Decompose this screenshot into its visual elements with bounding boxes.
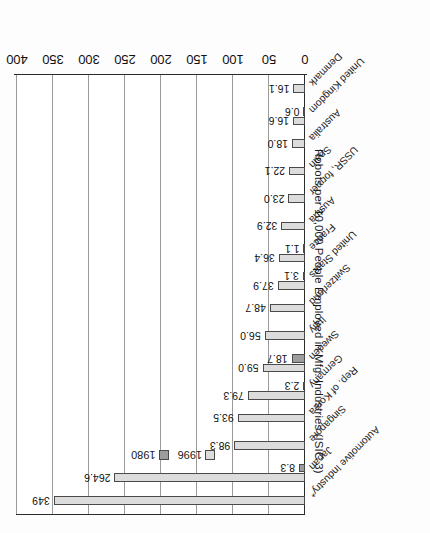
tick-mark-400 xyxy=(14,74,19,75)
tick-mark-200 xyxy=(158,74,163,75)
bar-1996 xyxy=(238,414,305,423)
value-axis-tick-label: 300 xyxy=(78,52,100,67)
value-axis-tick-label: 350 xyxy=(42,52,64,67)
tick-mark-50 xyxy=(266,74,271,75)
gridline-300 xyxy=(88,75,89,514)
chart-figure-rotated: Robots per 10,000 People Employed in Mfg… xyxy=(0,0,365,533)
tick-mark-350 xyxy=(50,74,55,75)
bar-value-label-1996: 36.4 xyxy=(254,252,274,264)
bar-value-label-1996: 48.7 xyxy=(246,302,266,314)
bar-1996 xyxy=(263,364,305,373)
chart-legend: 1996 1980 xyxy=(131,449,215,461)
bar-1996 xyxy=(288,194,305,203)
value-axis-tick-label: 400 xyxy=(6,52,28,67)
legend-swatch-1980 xyxy=(159,450,169,460)
bar-1996 xyxy=(293,84,305,93)
bar-1980 xyxy=(292,354,305,363)
bar-1980 xyxy=(303,244,305,253)
bar-1980 xyxy=(303,382,305,391)
tick-mark-300 xyxy=(86,74,91,75)
gridline-100 xyxy=(232,75,233,514)
bar-value-label-1996: 59.0 xyxy=(238,362,258,374)
bar-1980 xyxy=(299,464,305,473)
bar-value-label-1980: 2.3 xyxy=(285,380,300,392)
bar-value-label-1996: 37.9 xyxy=(253,280,273,292)
tick-mark-250 xyxy=(122,74,127,75)
bar-value-label-1996: 16.1 xyxy=(269,83,289,95)
tick-mark-150 xyxy=(194,74,199,75)
value-axis-tick-label: 250 xyxy=(114,52,136,67)
bar-1996 xyxy=(270,304,305,313)
bar-value-label-1996: 56.0 xyxy=(240,330,260,342)
bar-1996 xyxy=(289,167,305,176)
bar-1996 xyxy=(234,441,305,450)
gridline-250 xyxy=(124,75,125,514)
bar-1996 xyxy=(279,254,305,263)
bar-value-label-1980: 18.7 xyxy=(267,353,287,365)
bar-value-label-1996: 349 xyxy=(32,495,50,507)
tick-mark-0 xyxy=(302,74,307,75)
value-axis-tick-label: 200 xyxy=(150,52,172,67)
bar-value-label-1980: 3.1 xyxy=(284,270,299,282)
bar-value-label-1996: 98.3 xyxy=(210,440,230,452)
bar-1996 xyxy=(293,117,305,126)
bar-value-label-1996: 79.3 xyxy=(223,390,243,402)
figure-page: Robots per 10,000 People Employed in Mfg… xyxy=(0,0,430,533)
bar-1996 xyxy=(278,281,305,290)
value-axis-tick-label: 100 xyxy=(222,52,244,67)
gridline-400 xyxy=(16,75,17,514)
bar-1996 xyxy=(265,331,305,340)
bar-value-label-1980: 1.1 xyxy=(285,243,300,255)
tick-mark-100 xyxy=(230,74,235,75)
bar-1980 xyxy=(303,107,305,116)
bar-1996 xyxy=(281,222,305,231)
bar-value-label-1996: 18.0 xyxy=(268,138,288,150)
legend-item-1980: 1980 xyxy=(131,449,168,461)
bar-value-label-1980: 0.6 xyxy=(285,106,300,118)
bar-value-label-1996: 93.5 xyxy=(213,412,233,424)
value-axis-tick-label: 0 xyxy=(301,52,308,67)
legend-label-1996: 1996 xyxy=(178,449,202,461)
bar-1996 xyxy=(54,496,305,505)
chart-area: Robots per 10,000 People Employed in Mfg… xyxy=(0,0,365,533)
bar-1996 xyxy=(248,391,305,400)
bar-1996 xyxy=(292,139,305,148)
bar-value-label-1996: 264.6 xyxy=(84,472,110,484)
bar-value-label-1996: 22.1 xyxy=(265,165,285,177)
category-axis-label: Italy xyxy=(307,314,328,335)
bar-value-label-1996: 23.0 xyxy=(264,193,284,205)
bar-1996 xyxy=(115,473,306,482)
gridline-350 xyxy=(52,75,53,514)
bar-1980 xyxy=(303,272,305,281)
value-axis-tick-label: 150 xyxy=(186,52,208,67)
bar-value-label-1980: 8.3 xyxy=(280,462,295,474)
bar-value-label-1996: 32.9 xyxy=(257,220,277,232)
legend-label-1980: 1980 xyxy=(131,449,155,461)
value-axis-tick-label: 50 xyxy=(262,52,276,67)
